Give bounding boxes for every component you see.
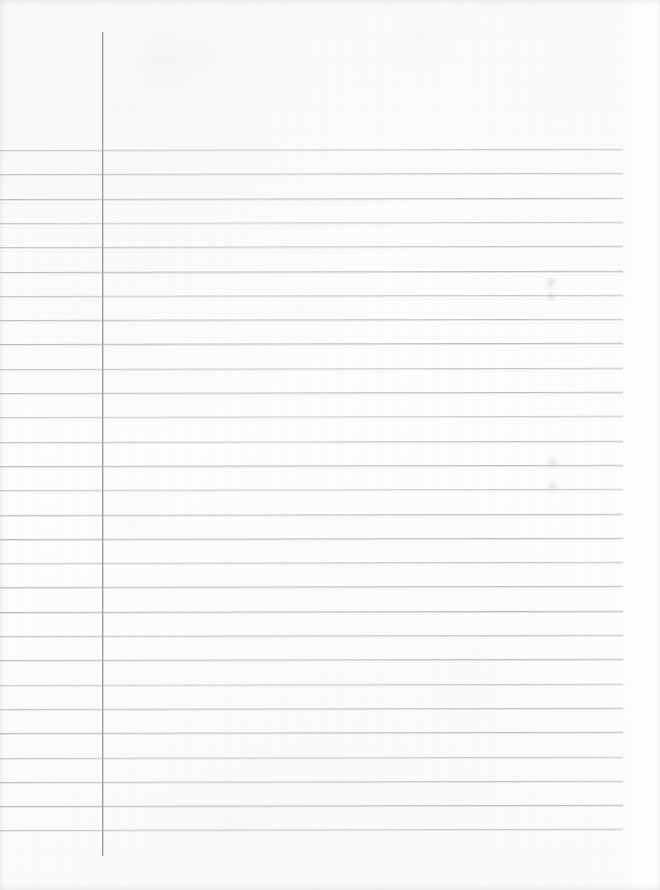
right-margin-whitespace xyxy=(620,0,660,890)
footer-blank-area xyxy=(110,842,610,886)
scanned-page xyxy=(0,0,660,890)
header-blank-area xyxy=(110,8,610,142)
written-content xyxy=(110,150,610,830)
vertical-margin-rule xyxy=(102,32,103,856)
